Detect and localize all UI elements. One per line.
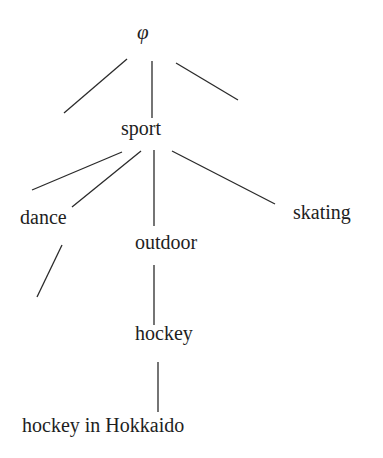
edge-sport-to-unlabeled-left: [32, 152, 122, 190]
edge-sport-to-skating: [172, 151, 275, 204]
node-root-phi: φ: [137, 22, 149, 43]
node-dance: dance: [20, 207, 67, 227]
tree-diagram: [0, 0, 383, 458]
edge-dance-to-unlabeled: [37, 245, 62, 297]
node-outdoor: outdoor: [135, 232, 197, 252]
node-hockey: hockey: [135, 323, 193, 343]
edge-root-to-unlabeled-left: [64, 59, 127, 113]
edge-sport-to-dance: [72, 151, 141, 207]
node-hockey-in-hokkaido: hockey in Hokkaido: [22, 415, 184, 435]
node-skating: skating: [293, 202, 351, 222]
edge-root-to-unlabeled-right: [176, 63, 238, 100]
node-sport: sport: [121, 118, 161, 138]
